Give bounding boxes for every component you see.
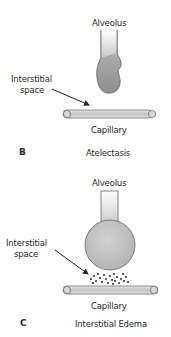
interstitial-fluid-dots	[90, 273, 129, 285]
capillary-label-b: Capillary	[91, 125, 127, 135]
diagram-artwork	[0, 0, 171, 337]
panel-letter-c: C	[20, 318, 27, 328]
interstitial-label-c-line2: space	[14, 249, 38, 259]
inflated-alveolus-sphere	[85, 220, 135, 270]
interstitial-label-b-line2: space	[20, 85, 44, 95]
capillary-tube-b	[63, 110, 156, 118]
alveolus-label-c: Alveolus	[92, 178, 126, 188]
interstitial-arrow-b	[52, 89, 89, 105]
alveolus-label-b: Alveolus	[92, 18, 126, 28]
collapsed-alveolus-shape	[97, 30, 122, 93]
panel-b-artwork	[52, 30, 156, 118]
interstitial-label-b-line1: Interstitial	[11, 74, 52, 84]
panel-c-artwork	[55, 191, 158, 294]
interstitial-label-c-line1: Interstitial	[6, 238, 47, 248]
capillary-label-c: Capillary	[91, 301, 127, 311]
panel-title-b: Atelectasis	[86, 148, 130, 158]
panel-title-c: Interstitial Edema	[75, 319, 147, 329]
capillary-tube-c	[63, 286, 158, 294]
panel-letter-b: B	[19, 147, 26, 157]
interstitial-arrow-c	[55, 250, 88, 274]
